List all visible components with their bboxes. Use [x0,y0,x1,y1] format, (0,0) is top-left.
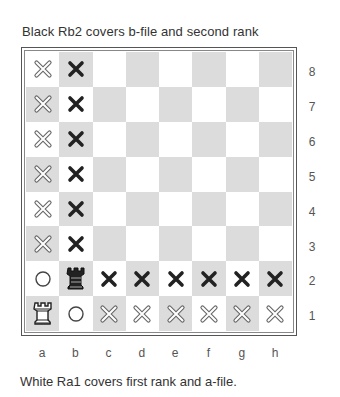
white-x-icon [265,304,285,324]
white-x-icon [33,94,53,114]
white-x-icon [33,199,53,219]
square-c7 [93,87,126,122]
square-h3 [259,226,292,261]
square-g4 [226,192,259,227]
square-b2 [59,261,92,296]
square-d6 [126,122,159,157]
square-a2 [26,261,59,296]
white-x-icon [33,164,53,184]
circle-icon [34,270,52,288]
square-h5 [259,157,292,192]
file-label-a: a [25,346,59,360]
square-e8 [159,52,192,87]
square-f3 [192,226,225,261]
square-c1 [93,296,126,331]
rank-label-4: 4 [305,205,319,219]
square-d5 [126,157,159,192]
white-x-icon [33,59,53,79]
file-label-g: g [225,346,259,360]
square-c2 [93,261,126,296]
square-g5 [226,157,259,192]
white-x-icon [166,304,186,324]
square-f7 [192,87,225,122]
rank-label-1: 1 [305,309,319,323]
square-a8 [26,52,59,87]
file-label-d: d [125,346,159,360]
square-b4 [59,192,92,227]
square-e6 [159,122,192,157]
square-a7 [26,87,59,122]
square-a1 [26,296,59,331]
black-x-icon [167,270,185,288]
chess-board-frame [21,47,297,336]
square-e4 [159,192,192,227]
black-x-icon [67,200,85,218]
rank-label-3: 3 [305,240,319,254]
white-x-icon [132,304,152,324]
square-h1 [259,296,292,331]
white-x-icon [99,304,119,324]
white-x-icon [33,129,53,149]
square-e7 [159,87,192,122]
square-f1 [192,296,225,331]
top-caption: Black Rb2 covers b-file and second rank [22,24,259,39]
white-x-icon [33,234,53,254]
square-g1 [226,296,259,331]
square-g6 [226,122,259,157]
square-g8 [226,52,259,87]
white-rook-icon [32,301,54,327]
square-d7 [126,87,159,122]
square-c6 [93,122,126,157]
bottom-caption: White Ra1 covers first rank and a-file. [20,374,237,389]
square-f5 [192,157,225,192]
square-g3 [226,226,259,261]
square-b5 [59,157,92,192]
black-x-icon [266,270,284,288]
circle-icon [67,305,85,323]
file-label-f: f [192,346,226,360]
file-label-h: h [258,346,292,360]
square-b1 [59,296,92,331]
black-x-icon [100,270,118,288]
square-h7 [259,87,292,122]
square-f8 [192,52,225,87]
square-b7 [59,87,92,122]
black-x-icon [67,60,85,78]
rank-label-6: 6 [305,135,319,149]
square-b8 [59,52,92,87]
square-a3 [26,226,59,261]
square-d8 [126,52,159,87]
black-x-icon [200,270,218,288]
square-b3 [59,226,92,261]
rank-label-8: 8 [305,65,319,79]
square-d3 [126,226,159,261]
square-d4 [126,192,159,227]
square-e1 [159,296,192,331]
square-e2 [159,261,192,296]
square-b6 [59,122,92,157]
square-h2 [259,261,292,296]
square-a5 [26,157,59,192]
square-h8 [259,52,292,87]
rank-label-2: 2 [305,274,319,288]
square-h6 [259,122,292,157]
square-e5 [159,157,192,192]
square-d2 [126,261,159,296]
black-rook-icon [65,266,87,292]
black-x-icon [67,95,85,113]
black-x-icon [67,165,85,183]
black-x-icon [67,130,85,148]
square-a6 [26,122,59,157]
file-label-c: c [92,346,126,360]
black-x-icon [133,270,151,288]
white-x-icon [199,304,219,324]
square-c3 [93,226,126,261]
square-d1 [126,296,159,331]
square-g2 [226,261,259,296]
square-c8 [93,52,126,87]
square-c4 [93,192,126,227]
file-label-e: e [158,346,192,360]
white-x-icon [232,304,252,324]
square-e3 [159,226,192,261]
square-g7 [226,87,259,122]
